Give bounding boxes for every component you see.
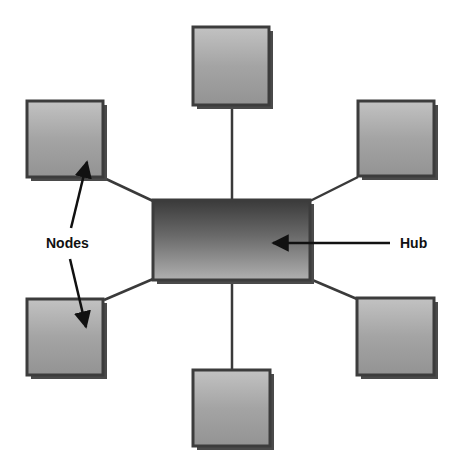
link-top-right <box>310 177 358 201</box>
hub-label: Hub <box>400 235 427 251</box>
star-topology-diagram: Nodes Hub <box>0 0 462 470</box>
node-top <box>193 27 273 109</box>
node-bottom-left <box>27 299 107 379</box>
link-bottom-left <box>104 279 153 300</box>
node-top-right <box>358 101 438 180</box>
node-top-left <box>27 101 107 181</box>
node-bottom-right <box>357 298 438 379</box>
nodes-label: Nodes <box>46 235 89 251</box>
link-top-left <box>104 178 153 201</box>
node-bottom <box>193 370 274 450</box>
link-bottom-right <box>310 279 357 299</box>
